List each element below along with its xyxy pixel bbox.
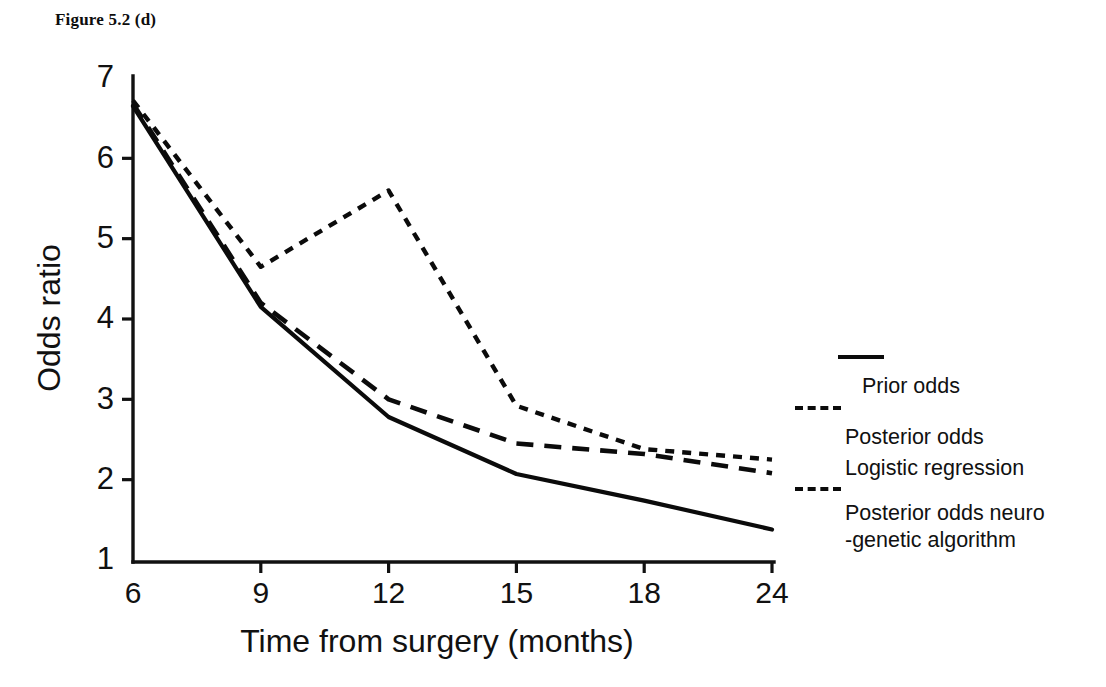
x-axis-title: Time from surgery (months)	[240, 623, 634, 659]
legend-key-prior-odds	[838, 355, 884, 359]
y-tick-label: 2	[97, 461, 114, 496]
y-axis-ticks: 1234567	[97, 59, 133, 576]
y-tick-label: 4	[97, 300, 114, 335]
y-tick-label: 1	[97, 541, 114, 576]
y-tick-label: 5	[97, 220, 114, 255]
legend-label-posterior-odds-neuro-genetic: Posterior odds neuro -genetic algorithm	[845, 500, 1045, 554]
series-line-posterior-odds	[133, 104, 772, 474]
legend-label-prior-odds: Prior odds	[862, 373, 960, 400]
chart-plot-area: 1234567 6912151824 Time from surgery (mo…	[0, 0, 1106, 687]
x-tick-label: 18	[628, 576, 661, 609]
x-tick-label: 15	[500, 576, 533, 609]
x-tick-label: 12	[372, 576, 405, 609]
y-tick-label: 7	[97, 59, 114, 94]
legend-key-logistic-regression	[795, 487, 841, 491]
x-tick-label: 24	[755, 576, 788, 609]
series-line-logistic-regression	[133, 101, 772, 460]
chart-series-group	[133, 101, 772, 530]
legend-label-logistic-regression: Logistic regression	[845, 455, 1024, 482]
chart-svg: 1234567 6912151824 Time from surgery (mo…	[0, 0, 1106, 687]
x-tick-label: 6	[125, 576, 142, 609]
chart-axes	[133, 76, 774, 562]
legend-label-posterior-odds: Posterior odds	[845, 424, 984, 451]
y-tick-label: 3	[97, 381, 114, 416]
series-line-prior-odds	[133, 106, 772, 529]
y-tick-label: 6	[97, 140, 114, 175]
x-tick-label: 9	[252, 576, 269, 609]
x-axis-ticks: 6912151824	[125, 562, 789, 609]
y-axis-title: Odds ratio	[31, 244, 67, 392]
legend-key-posterior-odds	[795, 406, 841, 410]
